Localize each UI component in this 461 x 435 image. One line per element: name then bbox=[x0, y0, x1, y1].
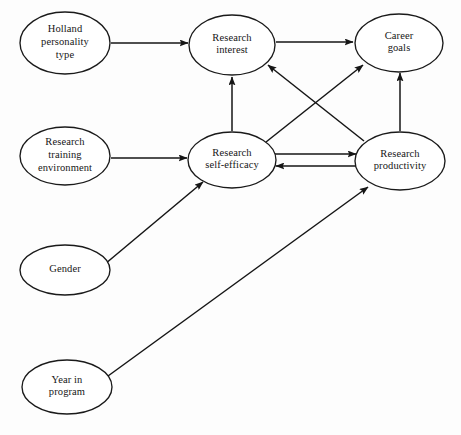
node-career-goals-label: Careergoals bbox=[385, 30, 414, 54]
edge-year-to-productivity bbox=[108, 187, 368, 376]
nodes-layer: Hollandpersonalitytype Researchinterest … bbox=[20, 12, 445, 414]
node-gender[interactable]: Gender bbox=[20, 245, 110, 295]
node-research-self-efficacy[interactable]: Researchself-efficacy bbox=[188, 132, 276, 188]
node-holland[interactable]: Hollandpersonalitytype bbox=[20, 12, 110, 74]
node-career-goals[interactable]: Careergoals bbox=[355, 14, 443, 72]
node-year-in-program-label: Year inprogram bbox=[49, 374, 85, 398]
path-diagram-canvas: Hollandpersonalitytype Researchinterest … bbox=[0, 0, 461, 435]
node-research-training-environment[interactable]: Researchtrainingenvironment bbox=[20, 127, 110, 185]
edge-self-efficacy-to-career-goals bbox=[266, 65, 363, 142]
node-year-in-program[interactable]: Year inprogram bbox=[22, 360, 112, 414]
node-gender-label: Gender bbox=[49, 263, 81, 274]
edges-layer bbox=[105, 42, 400, 376]
node-research-self-efficacy-label: Researchself-efficacy bbox=[205, 147, 259, 171]
path-diagram: Hollandpersonalitytype Researchinterest … bbox=[0, 0, 461, 435]
edge-gender-to-self-efficacy bbox=[105, 182, 203, 264]
node-research-interest[interactable]: Researchinterest bbox=[189, 15, 275, 75]
node-research-productivity-label: Researchproductivity bbox=[374, 148, 427, 172]
node-research-interest-label: Researchinterest bbox=[212, 32, 252, 56]
node-research-productivity[interactable]: Researchproductivity bbox=[355, 132, 445, 190]
